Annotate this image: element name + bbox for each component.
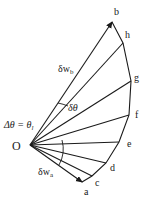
point-label-h: h <box>125 29 130 40</box>
velocity-diagram: acdefghb O δwb δwa δθ Δθ = θl <box>0 0 147 201</box>
polygon-curve <box>82 22 131 182</box>
point-label-c: c <box>95 177 100 188</box>
ray-d <box>30 145 106 163</box>
delta-theta-equation: Δθ = θl <box>3 119 33 132</box>
point-label-g: g <box>134 72 139 83</box>
delta-w-a-label: δwa <box>38 166 54 179</box>
ray-g <box>30 81 131 145</box>
point-label-f: f <box>135 109 139 120</box>
origin-label: O <box>12 139 21 153</box>
ray-f <box>30 115 129 145</box>
delta-w-b-label: δwb <box>58 63 74 76</box>
ray-b <box>30 22 112 145</box>
point-label-a: a <box>84 186 89 197</box>
rays <box>30 22 131 182</box>
point-labels: acdefghb <box>84 6 139 197</box>
ray-e <box>30 142 119 145</box>
point-label-b: b <box>114 6 119 17</box>
ray-h <box>30 43 123 145</box>
delta-theta-label: δθ <box>68 102 78 113</box>
point-label-e: e <box>127 138 132 149</box>
point-label-d: d <box>110 162 115 173</box>
